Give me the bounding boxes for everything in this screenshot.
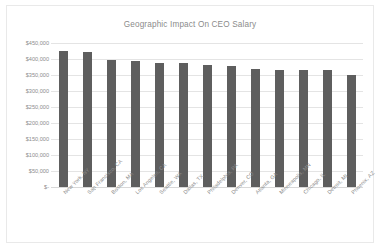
y-axis-tick-label: $150,000 <box>7 136 49 142</box>
y-axis-tick-label: $400,000 <box>7 56 49 62</box>
x-axis-labels: New York, NYSan Francisco, CABoston, MAL… <box>51 189 363 249</box>
y-axis-tick-label: $300,000 <box>7 88 49 94</box>
y-axis-tick-label: $250,000 <box>7 104 49 110</box>
bar <box>251 69 260 187</box>
y-axis-tick-label: $- <box>7 184 49 190</box>
bar <box>275 70 284 187</box>
y-axis-tick-label: $450,000 <box>7 40 49 46</box>
y-axis-tick-label: $200,000 <box>7 120 49 126</box>
bar <box>203 65 212 187</box>
y-axis-tick-label: $100,000 <box>7 152 49 158</box>
plot-area <box>51 43 363 187</box>
gridline <box>51 59 363 60</box>
bar <box>131 61 140 187</box>
bar <box>323 70 332 187</box>
y-axis-tick-label: $50,000 <box>7 168 49 174</box>
axis-tick-mark <box>94 189 96 190</box>
gridline <box>51 43 363 44</box>
chart-frame: Geographic Impact On CEO Salary $450,000… <box>6 5 374 243</box>
y-axis-tick-label: $350,000 <box>7 72 49 78</box>
bar <box>179 63 188 187</box>
y-axis-labels: $450,000$400,000$350,000$300,000$250,000… <box>7 43 49 187</box>
bar <box>347 75 356 187</box>
chart-title: Geographic Impact On CEO Salary <box>7 20 373 29</box>
bar <box>59 51 68 187</box>
